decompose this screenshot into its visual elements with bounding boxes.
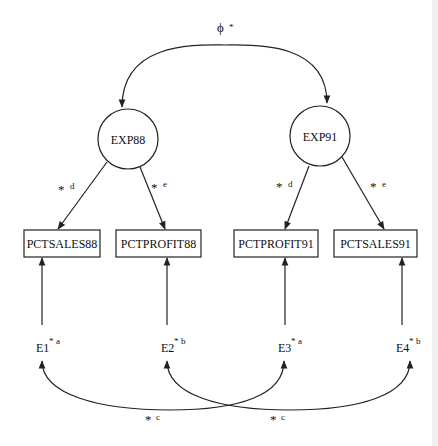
loading-exp91-pctprofit91: * d [276,166,309,229]
svg-text:b: b [416,336,421,346]
svg-text:b: b [181,336,186,346]
svg-text:E3: E3 [278,341,291,355]
loading-exp91-pctsales91: * e [342,157,386,229]
svg-text:*: * [49,336,54,346]
svg-text:*: * [270,412,277,427]
svg-text:e: e [163,179,167,189]
svg-text:c: c [281,412,285,422]
svg-text:*: * [174,336,179,346]
error-e4: E4 * b [396,336,421,355]
svg-text:d: d [288,179,293,189]
indicator-pctprofit91: PCTPROFIT91 [234,230,318,257]
indicator-pctsales88: PCTSALES88 [24,230,100,257]
path-diagram: ϕ * EXP88 EXP91 * d * e * d * e PCTSALES… [0,0,438,446]
svg-text:*: * [58,182,65,197]
svg-text:PCTPROFIT91: PCTPROFIT91 [238,237,313,251]
indicator-pctprofit88: PCTPROFIT88 [116,230,201,257]
svg-text:E1: E1 [36,341,49,355]
phi-star: * [229,22,234,32]
svg-text:*: * [291,336,296,346]
svg-text:PCTSALES88: PCTSALES88 [27,237,98,251]
svg-text:a: a [56,336,60,346]
factor-covariance: ϕ * [122,20,327,107]
svg-text:*: * [145,412,152,427]
error-e1: E1 * a [36,336,60,355]
svg-text:E2: E2 [161,341,174,355]
indicator-pctsales91: PCTSALES91 [334,230,417,257]
svg-text:*: * [370,179,377,194]
svg-text:e: e [382,179,386,189]
phi-symbol: ϕ [217,20,224,35]
svg-text:c: c [156,412,160,422]
svg-text:*: * [409,336,414,346]
factor-exp91: EXP91 [290,106,350,166]
error-e2: E2 * b [161,336,186,355]
error-covariance-e1-e3: * c [42,361,284,427]
svg-text:a: a [298,336,302,346]
svg-text:*: * [151,180,158,195]
factor-exp88: EXP88 [98,109,158,169]
svg-text:E4: E4 [396,341,409,355]
error-covariance-e2-e4: * c [167,361,410,427]
error-e3: E3 * a [278,336,302,355]
factor-label: EXP91 [303,130,338,144]
svg-text:PCTPROFIT88: PCTPROFIT88 [121,237,196,251]
svg-text:d: d [70,181,75,191]
svg-text:PCTSALES91: PCTSALES91 [340,237,411,251]
loading-exp88-pctsales88: * d [58,162,107,229]
factor-label: EXP88 [111,133,146,147]
svg-text:*: * [276,179,283,194]
loading-exp88-pctprofit88: * e [140,167,167,229]
